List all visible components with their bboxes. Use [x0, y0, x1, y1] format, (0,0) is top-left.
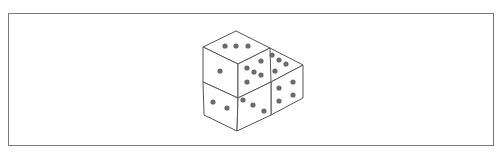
pips-top-left-die-top: [222, 43, 250, 48]
pips-top-left-die-left: [217, 68, 222, 73]
dice-illustration: [0, 0, 503, 164]
